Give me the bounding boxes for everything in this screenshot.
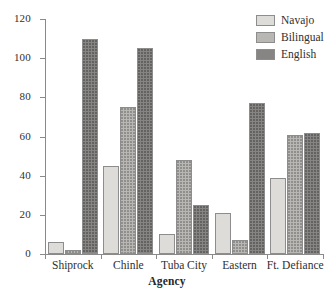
y-tick (40, 97, 46, 98)
bar (193, 205, 209, 254)
bar-group (48, 19, 98, 254)
x-category-label: Ft. Defiance (261, 259, 329, 272)
bar-group (159, 19, 209, 254)
y-tick (40, 19, 46, 20)
legend-label-navajo: Navajo (281, 14, 314, 27)
bar (82, 39, 98, 254)
bar (215, 213, 231, 254)
bar (65, 250, 81, 254)
y-tick (40, 137, 46, 138)
y-tick (40, 58, 46, 59)
legend-swatch-bilingual (256, 32, 275, 43)
legend-label-bilingual: Bilingual (281, 31, 324, 44)
y-tick-label: 0 (0, 248, 31, 259)
bar (48, 242, 64, 254)
x-axis-line (45, 254, 324, 255)
bar-chart: 020406080100120 ShiprockChinleTuba CityE… (0, 0, 334, 306)
bar (270, 178, 286, 254)
y-tick-label: 100 (0, 52, 31, 63)
bar (159, 234, 175, 254)
legend-label-english: English (281, 48, 316, 61)
x-axis-title: Agency (0, 275, 334, 287)
bar (249, 103, 265, 254)
x-tick (101, 254, 102, 259)
x-tick (323, 254, 324, 259)
y-tick-label: 60 (0, 131, 31, 142)
y-tick-label: 80 (0, 91, 31, 102)
scan-artifact-caption (0, 296, 334, 306)
y-tick-label: 20 (0, 209, 31, 220)
x-tick (267, 254, 268, 259)
bar (103, 166, 119, 254)
bar (120, 107, 136, 254)
bar-group (103, 19, 153, 254)
legend-swatch-english (256, 49, 275, 60)
bar (304, 133, 320, 254)
y-tick (40, 215, 46, 216)
y-tick-label: 120 (0, 13, 31, 24)
legend-swatch-navajo (256, 15, 275, 26)
x-tick (156, 254, 157, 259)
bar (287, 135, 303, 254)
bar (176, 160, 192, 254)
x-tick (212, 254, 213, 259)
x-tick (45, 254, 46, 259)
bar (137, 48, 153, 254)
y-tick-label: 40 (0, 170, 31, 181)
bar (232, 240, 248, 254)
y-tick (40, 176, 46, 177)
